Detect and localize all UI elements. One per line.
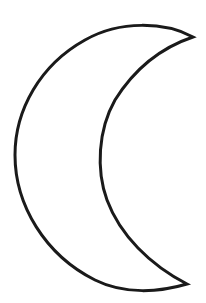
- crescent-outline: [15, 25, 193, 290]
- canvas: [0, 0, 206, 303]
- crescent-moon-icon: [0, 0, 206, 303]
